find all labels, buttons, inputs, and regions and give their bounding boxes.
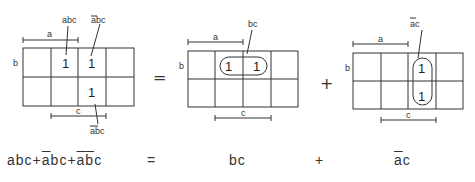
equation-rhs-bc: bc [229,152,246,168]
equation-lhs: abc+abc+abc [7,152,102,168]
label-b-1: b [13,58,18,68]
label-c-2: c [241,108,246,118]
equals-sign: = [153,68,166,87]
equation-plus: + [315,152,324,168]
label-a-1: a [47,29,52,39]
one-cell: 1 [418,89,425,104]
one-cell: 1 [62,56,69,71]
label-c-1: c [76,106,81,116]
plus-sign: + [320,74,333,93]
one-cell: 1 [88,85,95,100]
label-c-3: c [406,110,411,120]
annotation-abar-c: ac [410,19,420,29]
annotation-abar-bc: abc [91,15,106,25]
label-b-3: b [345,63,350,73]
label-a-3: a [378,34,383,44]
one-cell: 1 [88,56,95,71]
one-cell: 1 [225,59,232,74]
label-b-2: b [179,61,184,71]
annotation-abar-bbar-c: abc [90,126,105,136]
annotation-bc: bc [248,19,258,29]
label-a-2: a [213,32,218,42]
annotation-abc: abc [62,15,77,25]
equation-rhs-abar-c: ac [394,152,411,168]
one-cell: 1 [253,59,260,74]
equation-equals: = [147,152,156,168]
one-cell: 1 [418,61,425,76]
